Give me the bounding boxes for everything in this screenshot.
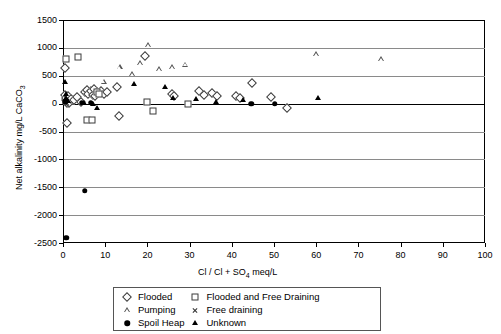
x-tick [232,243,233,247]
x-tick-label: 80 [386,251,416,260]
x-tick-label: 30 [175,251,205,260]
legend-symbol-cell [188,316,206,329]
y-tick-label: -1500 [23,183,57,192]
y-tick-label: -2500 [23,239,57,248]
legend-label: Flooded and Free Draining [206,290,323,303]
x-tick-label: 0 [48,251,78,260]
marker-open-diamond [122,292,132,302]
x-tick-label: 100 [470,251,500,260]
y-tick-label: -2000 [23,211,57,220]
x-tick-label: 40 [217,251,247,260]
legend-symbol-cell [188,303,206,316]
y-tick-label: -500 [23,127,57,136]
x-tick [485,243,486,247]
legend-row: FloodedFlooded and Free Draining [120,290,324,303]
y-tick-label: 1000 [23,43,57,52]
legend-symbol-cell [120,290,138,303]
gridline [63,215,485,216]
y-tick-label: -1000 [23,155,57,164]
legend-box: FloodedFlooded and Free DrainingPumpingF… [113,287,381,331]
x-tick [105,243,106,247]
legend-label: Spoil Heap [138,316,188,329]
legend-table: FloodedFlooded and Free DrainingPumpingF… [120,290,324,329]
y-axis-title: Net alkalinity mg/L CaCO3 [14,85,26,190]
y-tick-label: 1500 [23,16,57,25]
x-tick [274,243,275,247]
y-tick [59,20,63,21]
y-tick [59,48,63,49]
y-tick-label: 500 [23,71,57,80]
legend-label: Flooded [138,290,188,303]
marker-cross [192,307,198,313]
gridline [63,76,485,77]
x-tick-label: 10 [90,251,120,260]
y-tick-label: 0 [23,99,57,108]
x-tick [358,243,359,247]
x-tick-label: 70 [343,251,373,260]
gridline [63,132,485,133]
marker-open-triangle [124,307,130,312]
y-axis-line [63,20,64,243]
x-tick-label: 20 [132,251,162,260]
x-tick [63,243,64,247]
x-tick [190,243,191,247]
y-tick [59,187,63,188]
marker-filled-circle [124,320,130,326]
gridline [63,48,485,49]
legend-symbol-cell [120,303,138,316]
y-tick [59,159,63,160]
x-tick-label: 50 [259,251,289,260]
x-tick [401,243,402,247]
legend-symbol-cell [120,316,138,329]
y-tick [59,132,63,133]
gridline [63,187,485,188]
marker-open-square [192,294,199,301]
y-tick [59,215,63,216]
y-tick [59,76,63,77]
zero-line [63,104,485,105]
marker-filled-triangle [192,320,198,325]
plot-area: 150010005000-500-1000-1500-2000-2500 010… [0,0,501,270]
y-tick [59,104,63,105]
x-tick-label: 90 [428,251,458,260]
x-tick-label: 60 [301,251,331,260]
chart-screenshot: 150010005000-500-1000-1500-2000-2500 010… [0,0,501,334]
legend-label: Pumping [138,303,188,316]
legend-row: Spoil HeapUnknown [120,316,324,329]
x-axis-title: Cl / Cl + SO4 meq/L [198,267,277,279]
x-tick [443,243,444,247]
gridline [63,159,485,160]
legend-label: Free draining [206,303,323,316]
x-tick [316,243,317,247]
legend-symbol-cell [188,290,206,303]
x-tick [147,243,148,247]
legend-row: PumpingFree draining [120,303,324,316]
legend-label: Unknown [206,316,323,329]
